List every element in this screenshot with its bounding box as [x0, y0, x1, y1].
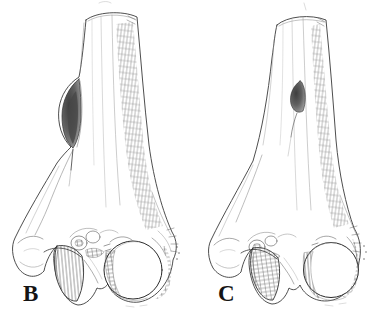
panel-label-c: C [218, 282, 235, 305]
panel-label-b: B [23, 282, 38, 305]
bone-b-drawing [13, 2, 180, 308]
bone-c-drawing [209, 3, 367, 306]
bone-plate-illustration [0, 0, 372, 316]
figure-panel: B C [0, 0, 372, 316]
